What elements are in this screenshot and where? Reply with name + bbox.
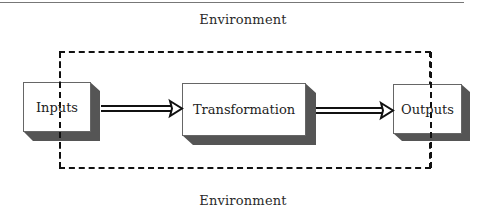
node-inputs-face: Inputs — [23, 82, 91, 132]
top-rule — [0, 2, 464, 3]
node-outputs-face: Outputs — [393, 84, 462, 134]
environment-label-bottom: Environment — [0, 193, 486, 208]
environment-label-top: Environment — [0, 12, 486, 27]
node-inputs-label: Inputs — [36, 100, 78, 115]
node-transformation-label: Transformation — [193, 102, 295, 117]
node-transformation: Transformation — [182, 83, 322, 147]
node-transformation-face: Transformation — [182, 83, 306, 136]
node-inputs: Inputs — [23, 82, 103, 142]
node-outputs-label: Outputs — [401, 102, 454, 117]
node-outputs: Outputs — [393, 84, 473, 144]
